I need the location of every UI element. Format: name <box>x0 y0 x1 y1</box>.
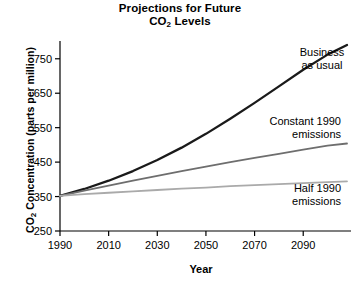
series-annotation-line: emissions <box>292 195 341 207</box>
y-axis-title-co2: CO <box>24 217 36 233</box>
x-axis-title: Year <box>55 263 347 275</box>
chart-container: Projections for Future CO2 Levels 250350… <box>0 0 360 283</box>
series-annotation-2: Half 1990emissions <box>292 182 341 207</box>
series-annotation-line: emissions <box>292 128 341 140</box>
y-axis-title: CO2 Concentration (parts per million) <box>24 40 38 240</box>
series-annotation-line: Constant 1990 <box>269 115 341 127</box>
y-axis-title-subscript: 2 <box>29 213 38 217</box>
x-axis-tick-label: 2010 <box>96 239 120 251</box>
series-annotation-1: Constant 1990emissions <box>269 115 341 140</box>
series-annotation-line: Half 1990 <box>294 182 341 194</box>
series-annotation-line: as usual <box>302 59 343 71</box>
x-axis-tick-label: 2090 <box>291 239 315 251</box>
x-axis-tick-label: 2030 <box>145 239 169 251</box>
y-axis-title-rest: Concentration (parts per million) <box>24 47 36 213</box>
x-axis-tick-label: 1990 <box>48 239 72 251</box>
x-axis-tick-label: 2050 <box>194 239 218 251</box>
series-annotation-line: Business <box>300 46 345 58</box>
x-axis-tick-label: 2070 <box>242 239 266 251</box>
series-annotation-0: Businessas usual <box>300 46 345 71</box>
plot-area: 2503504505506507501990201020302050207020… <box>0 0 360 283</box>
